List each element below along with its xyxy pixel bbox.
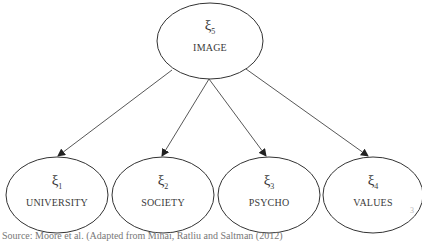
edge-image-university (58, 70, 172, 156)
node-label: UNIVERSITY (7, 197, 107, 209)
node-values: ξ4 VALUES (323, 173, 422, 209)
node-label: VALUES (323, 197, 422, 209)
xi-symbol: ξ5 (160, 18, 260, 39)
node-label: PSYCHO (219, 197, 319, 209)
node-label: IMAGE (160, 42, 260, 54)
source-caption: Source: Moore et al. (Adapted from Mihai… (2, 231, 283, 241)
page-mark: 3 (410, 206, 414, 215)
edge-image-society (162, 79, 209, 156)
node-psycho: ξ3 PSYCHO (219, 173, 319, 209)
node-image: ξ5 IMAGE (160, 18, 260, 54)
xi-symbol: ξ3 (219, 173, 319, 194)
xi-symbol: ξ2 (113, 173, 213, 194)
edge-image-psycho (209, 79, 266, 156)
node-university: ξ1 UNIVERSITY (7, 173, 107, 209)
node-label: SOCIETY (113, 197, 213, 209)
xi-symbol: ξ1 (7, 173, 107, 194)
edge-image-values (246, 69, 368, 156)
xi-symbol: ξ4 (323, 173, 422, 194)
node-society: ξ2 SOCIETY (113, 173, 213, 209)
